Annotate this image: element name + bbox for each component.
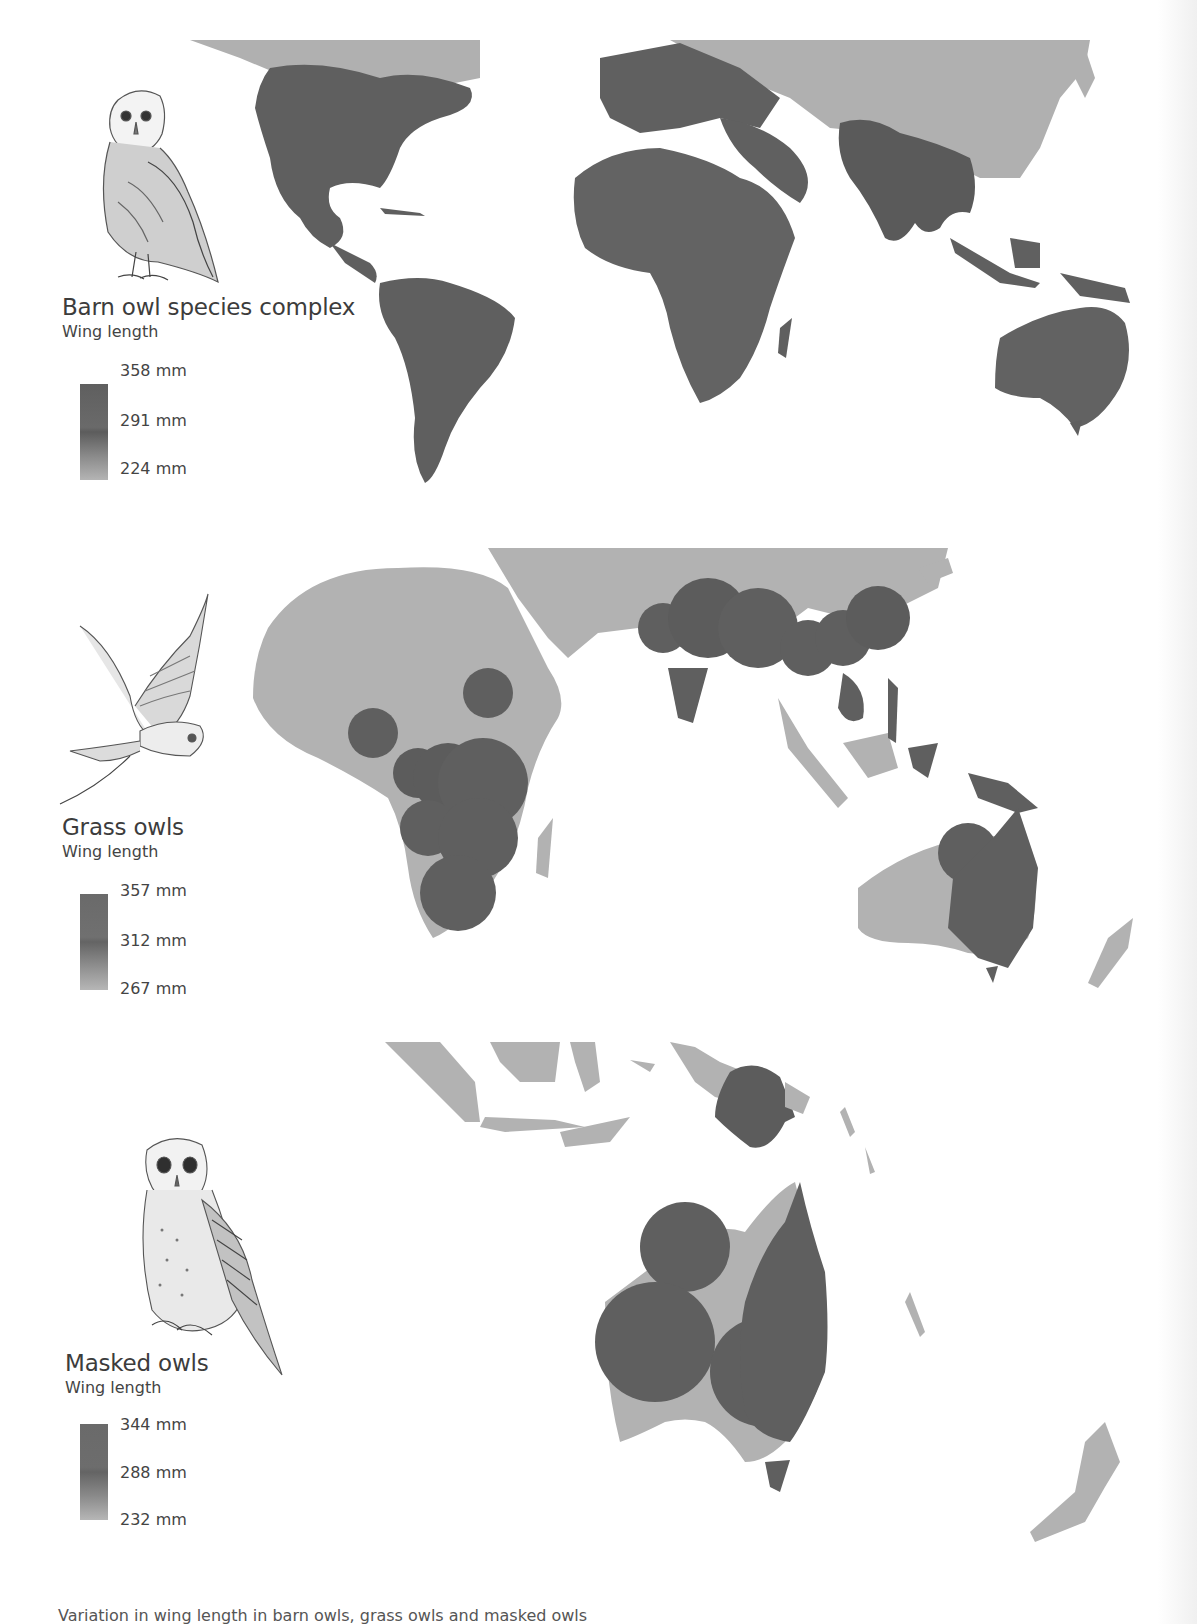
- legend-mid-label: 291 mm: [120, 411, 187, 430]
- legend-min-label: 232 mm: [120, 1510, 187, 1529]
- legend-mid-label: 288 mm: [120, 1463, 187, 1482]
- page-edge-shadow: [1157, 0, 1197, 1624]
- legend-min-label: 267 mm: [120, 979, 187, 998]
- legend-max-label: 358 mm: [120, 361, 187, 380]
- legend-max-label: 344 mm: [120, 1415, 187, 1434]
- masked-owl-panel: Masked owls Wing length 344 mm 288 mm 23…: [0, 1030, 1197, 1590]
- colorbar: [80, 1424, 108, 1520]
- panel-subtitle: Wing length: [62, 842, 158, 861]
- world-map: [180, 38, 1140, 488]
- colorbar: [80, 384, 108, 480]
- colorbar: [80, 894, 108, 990]
- barn-owl-panel: Barn owl species complex Wing length 358…: [0, 0, 1197, 500]
- grass-owl-panel: Grass owls Wing length 357 mm 312 mm 267…: [0, 520, 1197, 1020]
- panel-title: Grass owls: [62, 814, 184, 840]
- australasia-map: [385, 1042, 1165, 1542]
- panel-title: Masked owls: [65, 1350, 209, 1376]
- legend-mid-label: 312 mm: [120, 931, 187, 950]
- grass-owl-illustration-icon: [40, 586, 220, 806]
- panel-subtitle: Wing length: [65, 1378, 161, 1397]
- masked-owl-illustration-icon: [132, 1130, 292, 1380]
- figure-caption: Variation in wing length in barn owls, g…: [58, 1606, 587, 1624]
- legend-max-label: 357 mm: [120, 881, 187, 900]
- panel-subtitle: Wing length: [62, 322, 158, 341]
- africa-asia-australia-map: [248, 548, 1178, 998]
- legend-min-label: 224 mm: [120, 459, 187, 478]
